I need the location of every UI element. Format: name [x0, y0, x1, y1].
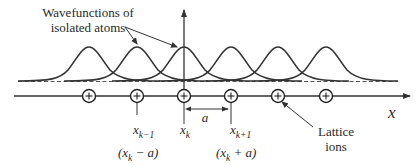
- wavefunctions-label-line2: isolated atoms: [51, 20, 126, 35]
- wavefunctions-label-line1: Wavefunctions of: [42, 5, 134, 20]
- wavefunction-curve: [64, 47, 208, 81]
- spacing-arrow-left-head: [185, 107, 191, 112]
- lattice-ion: [83, 90, 96, 103]
- label-x-k: xk: [179, 122, 191, 140]
- lattice-ion: [131, 90, 144, 103]
- wavefunction-curves: [18, 47, 398, 81]
- lattice-ion: [272, 90, 285, 103]
- wavefunctions-pointer-2: [125, 27, 177, 47]
- lattice-ion: [178, 90, 191, 103]
- lattice-ion: [225, 90, 238, 103]
- lattice-label-line2: ions: [325, 139, 347, 154]
- wavefunction-curve: [18, 47, 160, 81]
- lattice-ion: [320, 90, 333, 103]
- x-axis-label: x: [387, 103, 396, 122]
- label-x-k-plus-1: xk+1: [229, 122, 251, 140]
- spacing-label: a: [202, 110, 209, 125]
- label-x-k-minus-1: xk−1: [132, 122, 154, 140]
- wavefunction-curve: [206, 47, 349, 81]
- label-x-k-plus-a: (xk + a): [216, 145, 256, 163]
- label-x-k-minus-a: (xk − a): [118, 145, 158, 163]
- lattice-wavefunction-diagram: a Wavefunctions of isolated atoms Lattic…: [0, 0, 420, 167]
- wavefunction-curve: [159, 47, 302, 81]
- wavefunction-curve: [254, 47, 398, 81]
- lattice-ions-pointer: [282, 102, 313, 127]
- lattice-label-line1: Lattice: [318, 124, 354, 139]
